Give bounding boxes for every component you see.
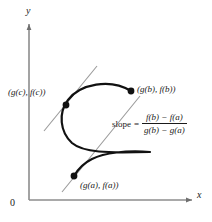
point-b-marker — [128, 88, 135, 95]
point-c-marker — [63, 102, 70, 109]
origin-label: 0 — [10, 198, 15, 208]
mean-value-theorem-diagram: y x 0 (g(c), f(c)) (g(b), f(b)) (g(a), f… — [0, 0, 212, 222]
x-axis-label: x — [197, 190, 201, 200]
slope-word: slope — [112, 119, 131, 129]
point-b-label: (g(b), f(b)) — [137, 85, 175, 94]
fraction-denominator: g(b) − g(a) — [142, 124, 187, 135]
slope-annotation: slope = f(b) − f(a) g(b) − g(a) — [112, 112, 187, 135]
slope-fraction: f(b) − f(a) g(b) − g(a) — [142, 112, 187, 135]
equals-sign: = — [134, 119, 139, 129]
fraction-numerator: f(b) − f(a) — [144, 112, 185, 123]
y-axis-label: y — [26, 6, 30, 16]
point-a-marker — [71, 173, 78, 180]
point-a-label: (g(a), f(a)) — [80, 181, 118, 190]
point-c-label: (g(c), f(c)) — [8, 88, 45, 97]
